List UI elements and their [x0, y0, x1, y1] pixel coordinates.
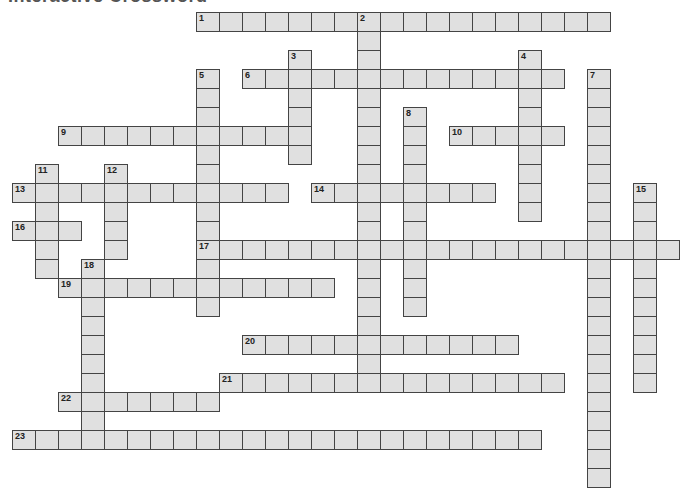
crossword-cell[interactable]: [403, 126, 427, 146]
letter-input[interactable]: [105, 279, 127, 297]
crossword-cell[interactable]: 6: [242, 69, 266, 89]
crossword-cell[interactable]: [357, 126, 381, 146]
crossword-cell[interactable]: [610, 240, 634, 260]
letter-input[interactable]: [197, 298, 219, 316]
letter-input[interactable]: [519, 184, 541, 202]
crossword-cell[interactable]: [265, 126, 289, 146]
crossword-cell[interactable]: [518, 126, 542, 146]
crossword-cell[interactable]: [35, 221, 59, 241]
crossword-cell[interactable]: [334, 430, 358, 450]
letter-input[interactable]: [197, 184, 219, 202]
letter-input[interactable]: [312, 241, 334, 259]
letter-input[interactable]: [404, 374, 426, 392]
crossword-cell[interactable]: [81, 126, 105, 146]
crossword-cell[interactable]: [633, 354, 657, 374]
letter-input[interactable]: [59, 279, 81, 297]
crossword-cell[interactable]: 3: [288, 50, 312, 70]
letter-input[interactable]: [496, 431, 518, 449]
letter-input[interactable]: [243, 279, 265, 297]
letter-input[interactable]: [381, 374, 403, 392]
letter-input[interactable]: [82, 393, 104, 411]
crossword-cell[interactable]: [288, 126, 312, 146]
crossword-cell[interactable]: [426, 183, 450, 203]
crossword-cell[interactable]: [357, 335, 381, 355]
crossword-cell[interactable]: 1: [196, 12, 220, 32]
letter-input[interactable]: [335, 336, 357, 354]
letter-input[interactable]: [13, 431, 35, 449]
crossword-cell[interactable]: [265, 430, 289, 450]
crossword-cell[interactable]: 23: [12, 430, 36, 450]
crossword-cell[interactable]: 16: [12, 221, 36, 241]
crossword-cell[interactable]: [104, 183, 128, 203]
letter-input[interactable]: [588, 165, 610, 183]
letter-input[interactable]: [128, 393, 150, 411]
crossword-cell[interactable]: [587, 411, 611, 431]
crossword-cell[interactable]: [196, 107, 220, 127]
letter-input[interactable]: [588, 279, 610, 297]
letter-input[interactable]: [634, 203, 656, 221]
crossword-cell[interactable]: [288, 69, 312, 89]
letter-input[interactable]: [519, 89, 541, 107]
letter-input[interactable]: [634, 355, 656, 373]
letter-input[interactable]: [473, 70, 495, 88]
crossword-cell[interactable]: [403, 202, 427, 222]
crossword-cell[interactable]: [127, 392, 151, 412]
letter-input[interactable]: [105, 165, 127, 183]
letter-input[interactable]: [243, 184, 265, 202]
crossword-cell[interactable]: [311, 278, 335, 298]
crossword-cell[interactable]: [426, 69, 450, 89]
letter-input[interactable]: [266, 431, 288, 449]
crossword-cell[interactable]: [173, 126, 197, 146]
letter-input[interactable]: [358, 165, 380, 183]
crossword-cell[interactable]: [633, 297, 657, 317]
crossword-cell[interactable]: [357, 297, 381, 317]
letter-input[interactable]: [312, 184, 334, 202]
letter-input[interactable]: [611, 241, 633, 259]
crossword-cell[interactable]: [265, 12, 289, 32]
letter-input[interactable]: [588, 431, 610, 449]
crossword-cell[interactable]: [403, 221, 427, 241]
crossword-cell[interactable]: [380, 240, 404, 260]
letter-input[interactable]: [519, 165, 541, 183]
crossword-cell[interactable]: [265, 335, 289, 355]
letter-input[interactable]: [358, 298, 380, 316]
letter-input[interactable]: [266, 184, 288, 202]
crossword-cell[interactable]: [357, 354, 381, 374]
letter-input[interactable]: [519, 13, 541, 31]
crossword-cell[interactable]: [311, 69, 335, 89]
crossword-cell[interactable]: 19: [58, 278, 82, 298]
crossword-cell[interactable]: [127, 183, 151, 203]
letter-input[interactable]: [381, 70, 403, 88]
letter-input[interactable]: [565, 13, 587, 31]
letter-input[interactable]: [358, 203, 380, 221]
letter-input[interactable]: [473, 336, 495, 354]
letter-input[interactable]: [496, 13, 518, 31]
letter-input[interactable]: [404, 336, 426, 354]
crossword-cell[interactable]: [495, 373, 519, 393]
letter-input[interactable]: [358, 355, 380, 373]
crossword-cell[interactable]: [311, 240, 335, 260]
letter-input[interactable]: [496, 70, 518, 88]
crossword-cell[interactable]: [587, 259, 611, 279]
letter-input[interactable]: [59, 222, 81, 240]
crossword-cell[interactable]: [334, 240, 358, 260]
letter-input[interactable]: [312, 279, 334, 297]
crossword-cell[interactable]: [587, 145, 611, 165]
crossword-cell[interactable]: [357, 259, 381, 279]
crossword-cell[interactable]: 22: [58, 392, 82, 412]
crossword-cell[interactable]: [334, 373, 358, 393]
crossword-cell[interactable]: [288, 240, 312, 260]
crossword-cell[interactable]: [449, 69, 473, 89]
letter-input[interactable]: [36, 241, 58, 259]
crossword-cell[interactable]: [564, 12, 588, 32]
crossword-cell[interactable]: [587, 468, 611, 488]
crossword-cell[interactable]: [587, 354, 611, 374]
letter-input[interactable]: [128, 184, 150, 202]
crossword-cell[interactable]: [495, 240, 519, 260]
letter-input[interactable]: [105, 431, 127, 449]
letter-input[interactable]: [450, 127, 472, 145]
crossword-cell[interactable]: [472, 183, 496, 203]
letter-input[interactable]: [473, 431, 495, 449]
crossword-cell[interactable]: [403, 373, 427, 393]
letter-input[interactable]: [358, 374, 380, 392]
